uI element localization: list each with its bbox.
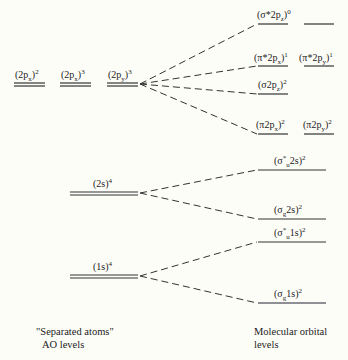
mo-label-pi2py: (π2py)2 <box>303 118 332 133</box>
mo-label-sig2pz: (σ2pz)2 <box>258 78 287 93</box>
mo-label-pistar2py: (π*2py)1 <box>299 51 333 66</box>
ao-level-1s <box>70 275 138 278</box>
ao-level-2py <box>60 83 91 86</box>
ao-label-2s: (2s)4 <box>93 177 112 189</box>
mo-label-sigstar2pz: (σ*2pz)0 <box>257 8 291 23</box>
ao-label-1s: (1s)4 <box>93 260 112 272</box>
mo-label-sigstaru2s: (σ*u2s)2 <box>274 154 305 169</box>
ao-level-2pz <box>107 83 138 86</box>
ao-level-2px <box>14 83 45 86</box>
mo-label-pistar2px: (π*2px)1 <box>254 51 288 66</box>
mo-label-sigg1s: (σg1s)2 <box>274 287 302 302</box>
ao-label-2pz: (2py)3 <box>108 68 132 83</box>
mo-label-pi2px: (π2px)2 <box>256 118 285 133</box>
caption-separated-atoms: "Separated atoms" AO levels <box>36 325 114 351</box>
mo-label-sigstaru1s: (σ*u1s)2 <box>274 226 305 241</box>
ao-label-2px: (2px)2 <box>15 68 39 83</box>
ao-label-2py: (2px)3 <box>61 68 85 83</box>
caption-molecular-orbital: Molecular orbital levels <box>254 325 327 351</box>
mo-label-sigg2s: (σg2s)2 <box>274 203 302 218</box>
ao-level-2s <box>70 192 138 195</box>
diagram-lines <box>0 0 348 360</box>
